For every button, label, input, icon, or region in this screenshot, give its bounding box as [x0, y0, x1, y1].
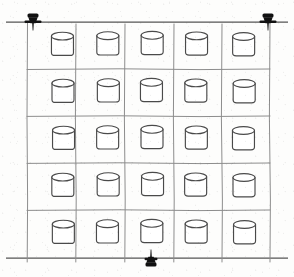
cylinder-r2-c1	[52, 79, 74, 102]
cylinder-r1-c1	[51, 32, 73, 55]
grid-line-vertical-1	[27, 22, 28, 262]
cylinder-r2-c5	[233, 80, 255, 103]
cylinder-r5-c5	[234, 221, 256, 244]
cylinder-r1-c4	[186, 32, 208, 55]
grid-line-horizontal-1	[27, 69, 270, 70]
diagram-canvas	[0, 0, 294, 277]
pin-bottom-center-icon	[145, 249, 158, 266]
cylinder-array	[51, 31, 255, 243]
cylinder-r2-c4	[185, 79, 207, 102]
grid-line-vertical-2	[75, 24, 76, 262]
cylinder-r3-c5	[232, 127, 254, 150]
grid-line-vertical-6	[269, 22, 270, 262]
cylinder-r3-c3	[141, 125, 163, 148]
grid-line-vertical-3	[124, 24, 125, 262]
cylinder-r3-c2	[97, 126, 119, 149]
cylinder-r3-c1	[53, 126, 75, 149]
cylinder-r1-c2	[97, 32, 119, 55]
cylinder-r2-c2	[97, 79, 119, 102]
cylinder-r5-c4	[185, 220, 207, 243]
grid-line-horizontal-2	[27, 116, 270, 117]
grid-line-horizontal-4	[27, 210, 270, 211]
cylinder-r3-c4	[185, 126, 207, 149]
cylinder-r4-c1	[52, 173, 74, 196]
cylinder-r5-c3	[141, 219, 163, 242]
cylinder-r4-c3	[142, 172, 164, 195]
grid-line-horizontal-3	[27, 163, 270, 164]
grid-line-vertical-4	[173, 24, 174, 262]
cylinder-r1-c3	[141, 31, 163, 54]
technical-drawing	[0, 0, 294, 277]
cylinder-r5-c1	[52, 220, 74, 243]
cylinder-r4-c5	[233, 174, 255, 197]
cylinder-r4-c2	[97, 173, 119, 196]
cylinder-r4-c4	[185, 173, 207, 196]
pin-top-right-icon	[260, 14, 277, 31]
cylinder-r5-c2	[96, 220, 118, 243]
cylinder-r2-c3	[140, 78, 162, 101]
grid-line-vertical-5	[221, 24, 222, 262]
cylinder-r1-c5	[233, 33, 255, 56]
